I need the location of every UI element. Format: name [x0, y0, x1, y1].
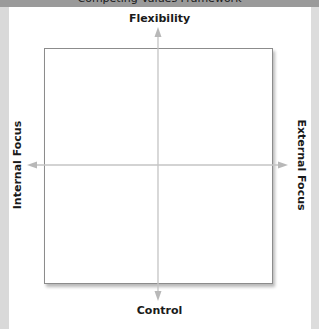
arrow-down-icon — [155, 291, 162, 301]
arrow-up-icon — [155, 27, 162, 37]
axes-arrows — [0, 0, 319, 329]
diagram-frame: Competing Values Framework Flexibility C… — [0, 0, 319, 329]
arrow-right-icon — [278, 162, 288, 169]
arrow-left-icon — [27, 162, 37, 169]
axis-label-control: Control — [0, 304, 319, 317]
axis-label-external-focus: External Focus — [295, 119, 308, 210]
axis-label-internal-focus: Internal Focus — [11, 121, 24, 209]
axis-label-flexibility: Flexibility — [0, 12, 319, 25]
